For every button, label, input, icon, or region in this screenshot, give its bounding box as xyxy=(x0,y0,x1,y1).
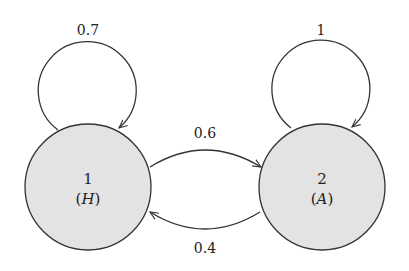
prob-label-1-2: 0.6 xyxy=(194,125,216,141)
transition-1-to-2: 0.6 xyxy=(150,125,261,167)
state-label-1: (H) xyxy=(76,190,101,208)
state-node-2: 2 (A) xyxy=(259,124,385,250)
arrow-2-to-1 xyxy=(150,212,260,229)
prob-label-2-1: 0.4 xyxy=(194,240,216,256)
loop-arrow-2 xyxy=(272,40,370,128)
transition-2-to-1: 0.4 xyxy=(150,212,260,256)
self-loop-2-to-2: 1 xyxy=(272,22,370,128)
state-node-1: 1 (H) xyxy=(25,124,151,250)
prob-label-1-1: 0.7 xyxy=(77,22,99,38)
state-number-2: 2 xyxy=(317,170,327,188)
self-loop-1-to-1: 0.7 xyxy=(38,22,136,130)
markov-chain-diagram: 0.7 1 0.6 0.4 1 (H) 2 (A) xyxy=(0,0,409,271)
prob-label-2-2: 1 xyxy=(317,22,326,38)
state-number-1: 1 xyxy=(83,170,93,188)
arrow-1-to-2 xyxy=(150,150,261,167)
state-label-2: (A) xyxy=(311,190,334,208)
loop-arrow-1 xyxy=(38,42,136,130)
